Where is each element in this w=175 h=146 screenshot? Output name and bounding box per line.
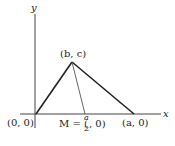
triangle-diagram: y x (b, c) (0, 0) (a, 0) M = ( a 2 , 0) [0,0,175,146]
side-origin-apex [36,62,72,114]
origin-label: (0, 0) [7,117,34,128]
midpoint-label-suffix: , 0) [89,118,106,129]
right-vertex-label: (a, 0) [122,117,149,128]
x-axis-label: x [163,108,169,119]
y-axis-label: y [30,2,37,13]
side-apex-right [72,62,134,114]
apex-label: (b, c) [60,48,86,59]
median-line [72,62,85,114]
